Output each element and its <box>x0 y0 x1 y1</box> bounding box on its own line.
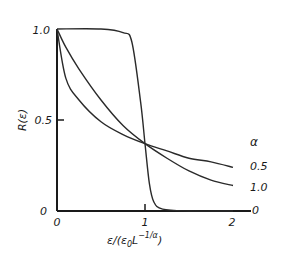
y-tick-label-1: 1.0 <box>33 24 51 37</box>
y-tick-label-05: 0.5 <box>35 114 53 127</box>
legend-label-0: 0 <box>252 204 259 217</box>
y-tick-label-0: 0 <box>40 205 47 218</box>
chart: 1.0 0.5 0 0 1 2 R(ε) ε/(ε0L−1/α) α 0.5 1… <box>0 0 283 259</box>
curve-alpha-0 <box>57 29 233 211</box>
curve-alpha-1-0 <box>57 29 233 186</box>
legend-label-10: 1.0 <box>250 181 268 194</box>
legend-title: α <box>250 135 258 149</box>
x-tick-label-1: 1 <box>142 216 149 229</box>
legend-label-05: 0.5 <box>250 160 268 173</box>
y-axis-label: R(ε) <box>16 109 29 131</box>
x-axis-label: ε/(ε0L−1/α) <box>107 231 162 249</box>
x-tick-label-0: 0 <box>54 216 61 229</box>
x-tick-label-2: 2 <box>229 216 236 229</box>
